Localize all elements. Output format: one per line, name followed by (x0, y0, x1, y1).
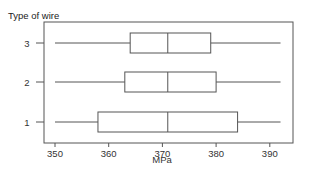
boxes-group (55, 33, 281, 132)
y-tick-label: 2 (24, 77, 29, 88)
boxplot-chart: 123 350360370380390 MPa (0, 0, 310, 180)
y-tick-label: 1 (24, 117, 29, 128)
y-ticks-group: 123 (24, 38, 44, 128)
x-tick-label: 380 (208, 148, 224, 159)
box-row-1 (55, 112, 281, 132)
iqr-box (130, 33, 211, 53)
box-row-3 (55, 33, 281, 53)
iqr-box (125, 72, 216, 92)
y-tick-label: 3 (24, 38, 29, 49)
x-tick-label: 390 (262, 148, 278, 159)
x-tick-label: 360 (101, 148, 117, 159)
x-axis-title: MPa (152, 154, 172, 165)
box-row-2 (55, 72, 281, 92)
x-tick-label: 350 (47, 148, 63, 159)
